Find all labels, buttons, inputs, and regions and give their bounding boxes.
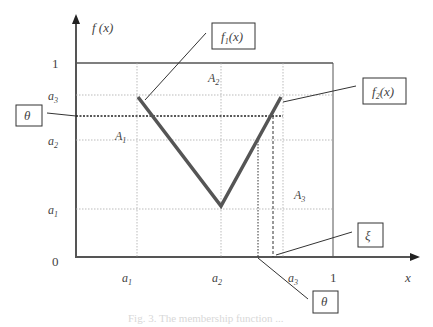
f2-callout-label: f2(x) xyxy=(372,84,394,101)
x-tick-a2: a2 xyxy=(212,271,222,287)
figure-caption: Fig. 3. The membership function ... xyxy=(128,312,348,326)
y-tick-0: 0 xyxy=(52,254,59,269)
f1-callout-leader xyxy=(145,33,206,100)
region-a2-label: A2 xyxy=(207,71,219,87)
y-axis-label: f (x) xyxy=(92,20,113,35)
x-axis-label: x xyxy=(404,270,411,285)
x-tick-1: 1 xyxy=(330,270,337,285)
y-axis-arrow-icon xyxy=(72,14,80,24)
x-tick-a3: a3 xyxy=(288,271,298,287)
membership-function-diagram: 1 a3 a2 a1 0 a1 a2 a3 1 x f (x) A1 A2 A3… xyxy=(0,0,433,327)
y-tick-1: 1 xyxy=(52,56,59,71)
theta-bottom-callout-leader xyxy=(258,258,308,299)
theta-left-callout-label: θ xyxy=(24,108,31,123)
vertical-gridlines xyxy=(137,63,283,257)
xi-callout-label: ξ xyxy=(365,228,371,243)
y-tick-a2: a2 xyxy=(48,134,58,150)
f2-callout-leader xyxy=(283,86,356,102)
theta-left-callout-leader xyxy=(47,113,76,116)
membership-function-curve xyxy=(138,97,281,206)
y-tick-a3: a3 xyxy=(48,89,58,105)
region-a3-label: A3 xyxy=(293,188,305,204)
xi-callout-leader xyxy=(276,232,352,255)
y-tick-a1: a1 xyxy=(48,203,58,219)
x-axis-arrow-icon xyxy=(410,253,420,261)
theta-bottom-callout-label: θ xyxy=(321,294,328,309)
f1-callout-label: f1(x) xyxy=(221,29,243,46)
x-tick-a1: a1 xyxy=(122,271,132,287)
region-a1-label: A1 xyxy=(114,129,126,145)
